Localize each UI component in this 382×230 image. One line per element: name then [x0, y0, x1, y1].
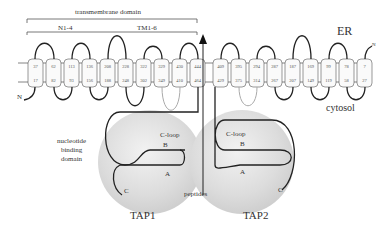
tap1-c-terminus-label: C: [124, 187, 129, 195]
svg-text:17: 17: [33, 78, 38, 83]
svg-text:136: 136: [86, 64, 94, 69]
svg-text:149: 149: [307, 78, 315, 83]
tap1-n-terminus-label: N: [17, 93, 22, 101]
svg-text:156: 156: [86, 78, 94, 83]
svg-text:322: 322: [140, 64, 147, 69]
tm-domain-label: TM1-6: [137, 24, 157, 32]
svg-text:375: 375: [235, 78, 243, 83]
svg-text:228: 228: [122, 64, 130, 69]
svg-text:248: 248: [122, 78, 130, 83]
transmembrane-bracket: [27, 19, 197, 35]
tap2-label: TAP2: [243, 209, 268, 221]
svg-text:349: 349: [158, 78, 166, 83]
tap2-c-terminus-label: C: [278, 186, 283, 194]
svg-text:464: 464: [194, 78, 202, 83]
svg-text:187: 187: [289, 64, 297, 69]
svg-text:113: 113: [68, 64, 75, 69]
svg-text:99: 99: [326, 64, 331, 69]
cytosol-label: cytosol: [326, 102, 355, 113]
svg-text:329: 329: [158, 64, 166, 69]
svg-text:58: 58: [344, 78, 349, 83]
n-domain-label: N1-4: [58, 24, 72, 32]
tap1-a-motif-label: A: [165, 170, 170, 178]
nbd-label: nucleotide binding domain: [57, 137, 86, 164]
svg-text:395: 395: [235, 64, 243, 69]
svg-text:430: 430: [176, 64, 184, 69]
svg-text:409: 409: [217, 64, 225, 69]
svg-text:444: 444: [194, 64, 202, 69]
svg-text:302: 302: [140, 78, 147, 83]
svg-text:314: 314: [253, 78, 261, 83]
svg-text:119: 119: [325, 78, 332, 83]
svg-text:287: 287: [271, 64, 279, 69]
svg-text:294: 294: [253, 64, 261, 69]
svg-text:37: 37: [33, 64, 38, 69]
grey-loops: [162, 87, 257, 110]
svg-text:62: 62: [51, 64, 56, 69]
svg-text:429: 429: [217, 78, 225, 83]
tap1-b-motif-label: B: [163, 141, 168, 149]
svg-text:267: 267: [271, 78, 279, 83]
tap2-a-motif-label: A: [240, 168, 245, 176]
tap2-nbd-sphere: [190, 110, 294, 214]
svg-text:169: 169: [307, 64, 315, 69]
transmembrane-domain-label: transmembrane domain: [75, 8, 141, 16]
tap2-b-motif-label: B: [240, 140, 245, 148]
tap1-label: TAP1: [130, 209, 155, 221]
svg-text:78: 78: [344, 64, 349, 69]
tap1-c-loop-label: C-loop: [160, 131, 179, 139]
svg-text:208: 208: [104, 64, 112, 69]
tap2-c-loop-label: C-loop: [226, 130, 245, 138]
svg-text:188: 188: [104, 78, 112, 83]
svg-text:410: 410: [176, 78, 184, 83]
er-label: ER: [337, 24, 352, 39]
tap2-n-terminus-label: N: [372, 42, 376, 47]
cytosol-loops: [24, 87, 365, 106]
peptides-label: peptides: [184, 190, 207, 198]
svg-text:207: 207: [289, 78, 297, 83]
svg-text:93: 93: [69, 78, 74, 83]
tap1-nbd-sphere: [98, 110, 202, 214]
svg-text:82: 82: [51, 78, 56, 83]
svg-text:27: 27: [362, 78, 367, 83]
